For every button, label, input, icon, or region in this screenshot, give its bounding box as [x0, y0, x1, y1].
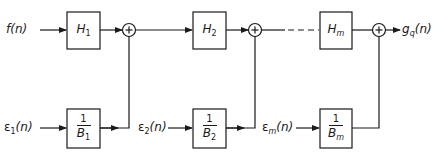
input-label-em: εm(n) [262, 120, 293, 139]
h2-sub: 2 [211, 29, 216, 38]
input-f-arg: (n) [10, 22, 27, 36]
input-label-e1: ε1(n) [4, 120, 33, 139]
h1-sub: 1 [85, 29, 90, 38]
wire-b1-to-sum1 [100, 37, 129, 129]
block-hm-label: Hm [320, 22, 352, 38]
bm-numerator: 1 [320, 113, 352, 124]
block-b2-label: 1 B2 [193, 113, 226, 144]
input-label-f: f(n) [6, 22, 27, 36]
input-em-arg: (n) [276, 120, 293, 134]
hm-name: H [328, 22, 337, 36]
bm-den-sub: m [336, 133, 344, 142]
block-h1-label: H1 [67, 22, 100, 38]
bm-denominator: Bm [320, 127, 352, 144]
input-label-e2: ε2(n) [138, 120, 167, 139]
input-e1-arg: (n) [16, 120, 33, 134]
b1-den-name: B [77, 126, 85, 140]
b1-numerator: 1 [67, 113, 100, 124]
b2-numerator: 1 [193, 113, 226, 124]
b1-denominator: B1 [67, 127, 100, 144]
b1-den-sub: 1 [85, 133, 90, 142]
output-g-name: g [402, 22, 410, 36]
bm-den-name: B [328, 126, 336, 140]
hm-sub: m [337, 29, 345, 38]
b2-den-sub: 2 [211, 133, 216, 142]
wire-b2-to-sum2 [226, 37, 255, 129]
block-bm-label: 1 Bm [320, 113, 352, 144]
input-e2-arg: (n) [150, 120, 167, 134]
output-g-arg: (n) [415, 22, 432, 36]
b2-den-name: B [203, 126, 211, 140]
block-h2-label: H2 [193, 22, 226, 38]
b2-denominator: B2 [193, 127, 226, 144]
block-b1-label: 1 B1 [67, 113, 100, 144]
wire-bm-to-summ [352, 37, 379, 129]
output-label-g: gq(n) [402, 22, 432, 41]
